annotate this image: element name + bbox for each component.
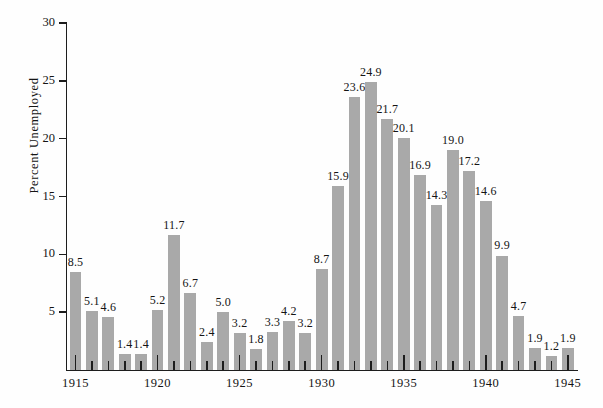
x-axis-line [66,370,578,371]
x-axis-minor-tick [534,361,536,370]
bar-value-label: 1.9 [550,331,586,346]
x-axis-minor-tick [91,361,93,370]
bar-value-label: 4.7 [501,299,537,314]
bar[interactable] [431,205,443,370]
bar-value-label: 4.6 [90,300,126,315]
bar-value-label: 3.2 [222,316,258,331]
bar-value-label: 5.0 [205,295,241,310]
x-axis-tick-label: 1935 [374,376,434,391]
x-axis-minor-tick [173,361,175,370]
x-axis-minor-tick [206,361,208,370]
x-axis-minor-tick [354,361,356,370]
x-axis-minor-tick [337,361,339,370]
bar[interactable] [168,235,180,370]
x-axis-major-tick [239,355,241,370]
x-axis-major-tick [485,355,487,370]
x-axis-minor-tick [501,361,503,370]
unemployment-bar-chart: Percent Unemployed 30252015105 8.55.14.6… [0,0,603,408]
bar[interactable] [414,175,426,370]
x-axis-major-tick [75,355,77,370]
bar[interactable] [349,97,361,370]
x-axis-tick-label: 1930 [292,376,352,391]
x-axis-minor-tick [518,361,520,370]
x-axis-minor-tick [288,361,290,370]
bar-value-label: 21.7 [369,102,405,117]
x-axis-major-tick [567,355,569,370]
x-axis-minor-tick [387,361,389,370]
x-axis-minor-tick [222,361,224,370]
bar-value-label: 9.9 [484,238,520,253]
x-axis-minor-tick [469,361,471,370]
plot-area: 8.55.14.61.41.45.211.76.72.45.03.21.83.3… [0,0,603,408]
bar[interactable] [332,186,344,370]
x-axis-minor-tick [436,361,438,370]
bar-value-label: 20.1 [386,121,422,136]
bar-value-label: 14.6 [468,184,504,199]
x-axis-minor-tick [140,361,142,370]
x-axis-tick-label: 1920 [128,376,188,391]
x-axis-minor-tick [272,361,274,370]
x-axis-minor-tick [108,361,110,370]
bar[interactable] [365,82,377,370]
bar[interactable] [463,171,475,370]
x-axis-tick-label: 1915 [46,376,106,391]
x-axis-minor-tick [452,361,454,370]
bar-value-label: 16.9 [402,158,438,173]
x-axis-tick-label: 1940 [456,376,516,391]
x-axis-minor-tick [419,361,421,370]
x-axis-tick-label: 1925 [210,376,270,391]
x-axis-minor-tick [551,361,553,370]
bar-value-label: 19.0 [435,133,471,148]
x-axis-tick-label: 1945 [538,376,598,391]
x-axis-major-tick [321,355,323,370]
bar-value-label: 6.7 [172,276,208,291]
bar-value-label: 11.7 [156,218,192,233]
x-axis-major-tick [157,355,159,370]
bar[interactable] [381,119,393,370]
x-axis-major-tick [403,355,405,370]
bar-value-label: 8.5 [58,255,94,270]
x-axis-minor-tick [370,361,372,370]
bar-value-label: 24.9 [353,65,389,80]
bar-value-label: 17.2 [451,154,487,169]
x-axis-minor-tick [304,361,306,370]
x-axis-minor-tick [190,361,192,370]
bar[interactable] [447,150,459,370]
x-axis-minor-tick [255,361,257,370]
x-axis-minor-tick [124,361,126,370]
bar[interactable] [480,201,492,370]
